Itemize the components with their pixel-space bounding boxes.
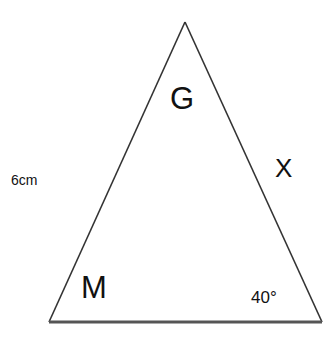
label-angle-40: 40° bbox=[251, 289, 277, 306]
label-angle-g: G bbox=[170, 83, 194, 114]
label-right-side-x: X bbox=[275, 155, 292, 181]
left-side-line bbox=[49, 22, 185, 322]
label-left-side-length: 6cm bbox=[11, 173, 37, 187]
right-side-line bbox=[185, 22, 322, 322]
label-angle-m: M bbox=[81, 272, 107, 303]
